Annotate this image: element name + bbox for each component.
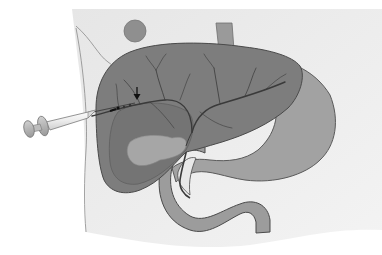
illustration-canvas	[0, 0, 382, 255]
anatomy-illustration: Percutaneous needle injection into intra…	[0, 0, 382, 255]
umbilicus	[124, 20, 146, 42]
